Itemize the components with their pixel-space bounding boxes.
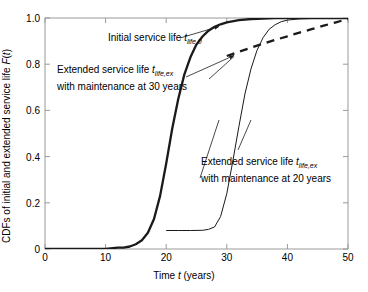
x-tick-label-0: 0 (42, 252, 48, 263)
annotation-initial-subscript: life,0 (187, 38, 202, 45)
y-axis-title: CDFs of initial and extended service lif… (0, 0, 14, 292)
y-axis-title-var2: t (1, 52, 12, 55)
annotation-extended-20-subscript: life,ex (299, 162, 317, 169)
y-axis-title-paren-close: ) (1, 49, 12, 52)
x-tick-label-40: 40 (282, 252, 293, 263)
y-axis-title-prefix: CDFs of initial and extended service lif… (1, 65, 12, 243)
x-axis-title: Time t (years) (0, 270, 368, 281)
y-axis-title-var: F (1, 58, 12, 64)
annotation-extended-30-text: Extended service life (57, 64, 152, 75)
y-tick-label-0-8: 0.8 (18, 59, 40, 70)
x-tick-label-20: 20 (161, 252, 172, 263)
annotation-extended-20-years: Extended service life tlife,ex with main… (201, 156, 331, 185)
y-tick-label-0-4: 0.4 (18, 151, 40, 162)
y-tick-label-0-2: 0.2 (18, 197, 40, 208)
x-tick-label-10: 10 (100, 252, 111, 263)
annotation-initial-service-life: Initial service life tlife,0 (108, 32, 202, 49)
x-tick-label-30: 30 (221, 252, 232, 263)
annotation-extended-30-line1: Extended service life tlife,ex (57, 64, 187, 81)
y-axis-title-paren-open: ( (1, 55, 12, 58)
x-axis-title-suffix: (years) (181, 270, 215, 281)
chart-figure: 0 10 20 30 40 50 0 0.2 0.4 0.6 0.8 1.0 T… (0, 0, 368, 292)
y-tick-label-1-0: 1.0 (18, 13, 40, 24)
y-tick-label-0: 0 (18, 244, 40, 255)
annotation-extended-30-line2: with maintenance at 30 years (57, 81, 187, 94)
y-tick-label-0-6: 0.6 (18, 105, 40, 116)
annotation-extended-30-years: Extended service life tlife,ex with main… (57, 64, 187, 93)
x-axis-title-prefix: Time (153, 270, 178, 281)
annotation-extended-20-line2: with maintenance at 20 years (201, 173, 331, 186)
annotation-extended-20-line1: Extended service life tlife,ex (201, 156, 331, 173)
annotation-initial-text: Initial service life (108, 32, 184, 43)
annotation-extended-20-text: Extended service life (201, 156, 296, 167)
annotation-extended-30-subscript: life,ex (155, 70, 173, 77)
plot-frame (45, 18, 348, 249)
x-tick-label-50: 50 (342, 252, 353, 263)
